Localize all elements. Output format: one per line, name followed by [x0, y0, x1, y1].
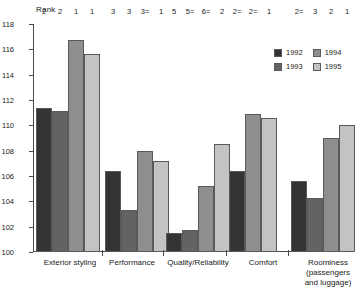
bar-annotation-1-0: 3	[105, 7, 121, 16]
legend-swatch-1995	[313, 63, 321, 71]
legend-label-1995: 1995	[325, 62, 348, 71]
bar-1992-0[interactable]	[36, 108, 52, 252]
bars-2	[166, 24, 230, 252]
y-tick-110	[29, 125, 33, 126]
bar-1995-4[interactable]	[339, 125, 355, 252]
bar-annotations-0: 2211	[36, 7, 100, 16]
y-tick-label-110: 110	[0, 121, 14, 130]
y-tick-106	[29, 176, 33, 177]
y-tick-label-116: 116	[0, 45, 14, 54]
group-separator-3	[288, 250, 289, 256]
bar-annotations-1: 333=1	[105, 7, 169, 16]
bar-1995-2[interactable]	[214, 144, 230, 252]
bar-annotation-3-2: 1	[261, 7, 277, 16]
bar-annotation-0-1: 2	[52, 7, 68, 16]
category-label-4: Roominess(passengersand luggage)	[278, 258, 363, 288]
bar-annotation-2-2: 6=	[198, 7, 214, 16]
bar-1993-4[interactable]	[307, 198, 323, 252]
bar-annotation-2-1: 5=	[182, 7, 198, 16]
group-separator-2	[226, 250, 227, 256]
bars-1	[105, 24, 169, 252]
group-separator-1	[163, 250, 164, 256]
bar-annotation-1-1: 3	[121, 7, 137, 16]
bar-chart: Rank 118116114112110108106104102100 2211…	[0, 0, 363, 297]
bar-annotation-4-2: 2	[323, 7, 339, 16]
y-tick-label-102: 102	[0, 222, 14, 231]
y-tick-label-112: 112	[0, 96, 14, 105]
y-tick-label-108: 108	[0, 146, 14, 155]
bar-annotation-2-3: 2	[214, 7, 230, 16]
bar-annotation-4-0: 2=	[291, 7, 307, 16]
bar-1992-2[interactable]	[166, 233, 182, 252]
y-tick-114	[29, 75, 33, 76]
y-tick-104	[29, 201, 33, 202]
bar-1994-3[interactable]	[245, 114, 261, 252]
y-tick-112	[29, 100, 33, 101]
bar-annotation-3-0: 2=	[229, 7, 245, 16]
y-tick-100	[29, 252, 33, 253]
bar-annotations-4: 2=321	[291, 7, 355, 16]
bar-annotation-0-0: 2	[36, 7, 52, 16]
bar-annotations-3: 2=2=1	[229, 7, 277, 16]
bar-1994-2[interactable]	[198, 186, 214, 252]
y-tick-label-114: 114	[0, 70, 14, 79]
bar-1994-1[interactable]	[137, 151, 153, 252]
bar-1994-4[interactable]	[323, 138, 339, 252]
bars-0	[36, 24, 100, 252]
bar-1993-0[interactable]	[52, 111, 68, 252]
legend: 1992 1994 1993 1995	[274, 48, 347, 71]
bars-3	[229, 24, 277, 252]
bar-1995-0[interactable]	[84, 54, 100, 252]
bar-annotation-4-1: 3	[307, 7, 323, 16]
legend-label-1994: 1994	[325, 48, 348, 57]
legend-label-1992: 1992	[286, 48, 309, 57]
y-tick-118	[29, 24, 33, 25]
bar-1993-2[interactable]	[182, 230, 198, 252]
y-tick-102	[29, 227, 33, 228]
legend-swatch-1994	[313, 49, 321, 57]
group-separator-0	[102, 250, 103, 256]
bar-annotation-2-0: 5	[166, 7, 182, 16]
bar-1995-3[interactable]	[261, 118, 277, 252]
y-tick-label-118: 118	[0, 20, 14, 29]
bar-annotations-2: 55=6=2	[166, 7, 230, 16]
legend-swatch-1992	[274, 49, 282, 57]
bar-annotation-3-1: 2=	[245, 7, 261, 16]
bar-1992-4[interactable]	[291, 181, 307, 252]
bar-annotation-1-2: 3=	[137, 7, 153, 16]
bar-1993-1[interactable]	[121, 210, 137, 252]
y-axis-line	[33, 24, 34, 252]
legend-label-1993: 1993	[286, 62, 309, 71]
bar-1992-1[interactable]	[105, 171, 121, 252]
bar-annotation-4-3: 1	[339, 7, 355, 16]
bar-1992-3[interactable]	[229, 171, 245, 252]
y-tick-116	[29, 49, 33, 50]
bar-1994-0[interactable]	[68, 40, 84, 252]
bar-annotation-0-2: 1	[68, 7, 84, 16]
y-tick-108	[29, 151, 33, 152]
y-tick-label-100: 100	[0, 248, 14, 257]
bar-annotation-0-3: 1	[84, 7, 100, 16]
y-tick-label-106: 106	[0, 172, 14, 181]
y-tick-label-104: 104	[0, 197, 14, 206]
legend-swatch-1993	[274, 63, 282, 71]
